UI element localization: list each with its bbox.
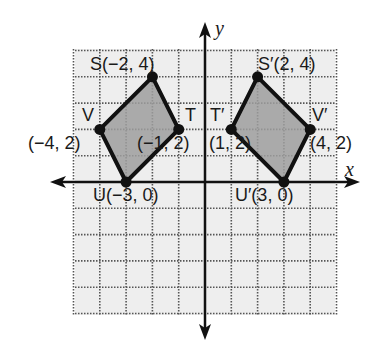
x-axis-label: x <box>344 158 354 180</box>
label-T-prime-coords: (1, 2) <box>209 133 251 153</box>
label-V-prime-coords: (4, 2) <box>310 133 352 153</box>
label-V-name: V <box>82 105 94 125</box>
label-U: U(−3, 0) <box>93 185 159 205</box>
label-U-prime: U′(3, 0) <box>235 185 293 205</box>
label-V-prime-name: V′ <box>312 105 328 125</box>
vertex-point <box>94 124 105 135</box>
label-V-coords: (−4, 2) <box>28 133 81 153</box>
label-S: S(−2, 4) <box>90 54 155 74</box>
coordinate-plane: y x S(−2, 4) V (−4, 2) T (−1, 2) U(−3, 0… <box>0 0 381 345</box>
label-T-coords: (−1, 2) <box>137 133 190 153</box>
y-axis-label: y <box>213 17 224 40</box>
label-T-name: T <box>185 105 196 125</box>
label-T-prime-name: T′ <box>210 105 225 125</box>
label-S-prime: S′(2, 4) <box>258 54 315 74</box>
